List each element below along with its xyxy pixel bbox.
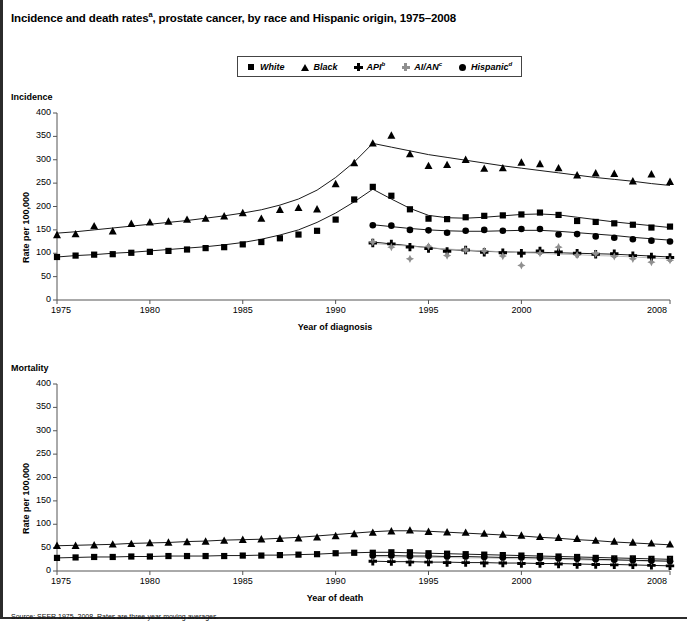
data-point-black xyxy=(462,528,470,535)
data-point-api xyxy=(517,249,525,257)
triangle-marker-icon xyxy=(301,62,310,71)
data-point-black xyxy=(350,159,358,166)
y-axis-tick-label: 250 xyxy=(25,177,51,187)
data-point-hispanic xyxy=(425,227,432,234)
y-axis-tick-label: 100 xyxy=(25,518,51,528)
data-point-black xyxy=(536,160,544,167)
data-point-white xyxy=(667,224,673,230)
data-point-hispanic xyxy=(555,231,562,238)
trend-line-black xyxy=(57,143,670,233)
data-point-white xyxy=(351,550,357,556)
data-point-api xyxy=(387,240,395,248)
data-point-white xyxy=(555,553,561,559)
data-point-hispanic xyxy=(574,556,581,563)
data-point-white xyxy=(407,206,413,212)
legend-footnote-marker: b xyxy=(382,61,386,67)
data-point-white xyxy=(407,549,413,555)
data-point-hispanic xyxy=(369,222,376,229)
trend-line-white xyxy=(57,552,670,559)
legend-item-black[interactable]: Black xyxy=(301,62,338,72)
x-axis-tick-label: 2000 xyxy=(504,576,538,586)
x-axis-tick-label: 2000 xyxy=(504,305,538,315)
chart-legend: WhiteBlackAPIbAI/ANcHispanicd xyxy=(237,56,522,77)
y-axis-tick-label: 50 xyxy=(25,271,51,281)
data-point-black xyxy=(573,171,581,178)
data-point-ai-an xyxy=(573,251,581,259)
data-point-black xyxy=(425,528,433,535)
data-point-white xyxy=(500,212,506,218)
data-point-black xyxy=(387,527,395,534)
data-point-black xyxy=(499,164,507,171)
data-point-black xyxy=(313,205,321,212)
legend-item-ai-an[interactable]: AI/ANc xyxy=(401,61,442,72)
trend-line-black xyxy=(57,531,670,546)
legend-item-white[interactable]: White xyxy=(247,62,285,72)
data-point-ai-an xyxy=(517,555,525,563)
data-point-white xyxy=(240,241,246,247)
data-point-white xyxy=(277,235,283,241)
data-point-white xyxy=(110,554,116,560)
data-point-black xyxy=(592,536,600,543)
data-point-hispanic xyxy=(369,552,376,559)
data-point-ai-an xyxy=(647,258,655,266)
data-point-white xyxy=(351,196,357,202)
data-point-api xyxy=(387,557,395,565)
legend-item-label: AI/ANc xyxy=(414,61,442,72)
data-point-white xyxy=(258,552,264,558)
data-point-ai-an xyxy=(629,255,637,263)
data-point-hispanic xyxy=(462,553,469,560)
data-point-hispanic xyxy=(518,554,525,561)
data-point-black xyxy=(592,169,600,176)
data-point-black xyxy=(276,535,284,542)
data-point-ai-an xyxy=(462,246,470,254)
data-point-white xyxy=(481,213,487,219)
y-axis-tick-label: 400 xyxy=(25,107,51,117)
data-point-white xyxy=(277,552,283,558)
data-point-hispanic xyxy=(444,553,451,560)
data-point-black xyxy=(443,161,451,168)
data-point-hispanic xyxy=(611,556,618,563)
data-point-black xyxy=(555,534,563,541)
data-point-hispanic xyxy=(630,557,637,564)
data-point-ai-an xyxy=(573,556,581,564)
data-point-ai-an xyxy=(666,256,674,264)
legend-item-api[interactable]: APIb xyxy=(354,61,386,72)
y-axis-tick-label: 250 xyxy=(25,448,51,458)
data-point-white xyxy=(370,550,376,556)
chart-footnote: Source: SEER 1975–2008. Rates are three-… xyxy=(11,612,681,621)
y-axis-tick-label: 150 xyxy=(25,224,51,234)
plus-marker-icon xyxy=(354,62,363,71)
data-point-white xyxy=(370,184,376,190)
legend-item-hispanic[interactable]: Hispanicd xyxy=(458,61,512,72)
data-point-black xyxy=(257,535,265,542)
x-axis-tick-label: 1995 xyxy=(412,305,446,315)
circle-marker-icon xyxy=(458,62,467,71)
data-point-black xyxy=(257,214,265,221)
data-point-black xyxy=(462,156,470,163)
data-point-ai-an xyxy=(443,251,451,259)
data-point-white xyxy=(518,552,524,558)
data-point-white xyxy=(110,251,116,257)
x-axis-tick-label: 1980 xyxy=(133,305,167,315)
data-point-ai-an xyxy=(424,553,432,561)
trend-line-hispanic xyxy=(373,556,670,562)
data-point-white xyxy=(667,556,673,562)
data-point-white xyxy=(463,551,469,557)
data-point-black xyxy=(72,230,80,237)
data-point-black xyxy=(146,218,154,225)
data-point-white xyxy=(91,554,97,560)
data-point-white xyxy=(630,222,636,228)
data-point-api xyxy=(554,560,562,568)
data-point-black xyxy=(183,215,191,222)
data-point-white xyxy=(444,551,450,557)
data-point-black xyxy=(313,533,321,540)
trend-line-hispanic xyxy=(373,225,670,240)
data-point-white xyxy=(593,219,599,225)
trend-line-ai-an xyxy=(373,243,670,258)
data-point-white xyxy=(537,209,543,215)
data-point-hispanic xyxy=(630,236,637,243)
data-point-black xyxy=(499,530,507,537)
data-point-white xyxy=(388,549,394,555)
x-axis-tick-label: 1975 xyxy=(44,305,78,315)
data-point-black xyxy=(629,177,637,184)
